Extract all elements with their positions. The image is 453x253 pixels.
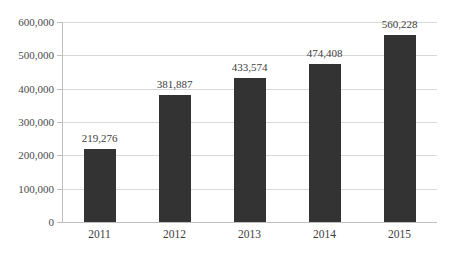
bar-slot: 474,408 (287, 22, 362, 222)
x-axis-tick-label: 2014 (287, 228, 362, 241)
bar-value-label: 474,408 (307, 48, 343, 59)
bars-layer: 219,276 381,887 433,574 474,408 560,228 (62, 22, 437, 222)
bar[interactable] (159, 95, 191, 222)
x-axis-labels: 2011 2012 2013 2014 2015 (62, 228, 437, 248)
y-axis-tick-label: 0 (0, 217, 54, 228)
bar[interactable] (84, 149, 116, 222)
y-axis-tick-label: 400,000 (0, 84, 54, 95)
x-axis-tick-label: 2012 (137, 228, 212, 241)
bar[interactable] (234, 78, 266, 223)
x-axis-tick-label: 2013 (212, 228, 287, 241)
bar[interactable] (309, 64, 341, 222)
bar-value-label: 381,887 (157, 79, 193, 90)
bar-slot: 433,574 (212, 22, 287, 222)
x-axis-tick-label: 2011 (62, 228, 137, 241)
bar[interactable] (384, 35, 416, 222)
y-axis-tick-label: 200,000 (0, 150, 54, 161)
y-axis-tick-label: 500,000 (0, 50, 54, 61)
bar-slot: 560,228 (362, 22, 437, 222)
bar-value-label: 219,276 (82, 133, 118, 144)
x-axis-line (62, 222, 437, 223)
bar-slot: 381,887 (137, 22, 212, 222)
y-axis-tick-label: 600,000 (0, 17, 54, 28)
x-axis-tick-label: 2015 (362, 228, 437, 241)
y-axis-tick-label: 100,000 (0, 184, 54, 195)
bar-slot: 219,276 (62, 22, 137, 222)
y-axis-labels: 600,000 500,000 400,000 300,000 200,000 … (0, 0, 54, 253)
bar-chart: 600,000 500,000 400,000 300,000 200,000 … (0, 0, 453, 253)
bar-value-label: 433,574 (232, 62, 268, 73)
y-axis-tick-label: 300,000 (0, 117, 54, 128)
bar-value-label: 560,228 (382, 19, 418, 30)
